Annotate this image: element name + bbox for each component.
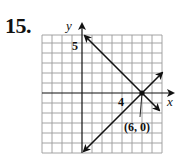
x-tick-label: 4 [118, 95, 124, 109]
x-axis-label: x [166, 94, 173, 109]
point-label: (6, 0) [124, 120, 150, 134]
y-axis-label: y [64, 18, 72, 33]
line-1 [85, 36, 142, 93]
y-tick-label: 5 [72, 39, 78, 53]
line-1-extension [142, 93, 159, 110]
coordinate-graph: y x 5 4 (6, 0) [0, 0, 187, 168]
